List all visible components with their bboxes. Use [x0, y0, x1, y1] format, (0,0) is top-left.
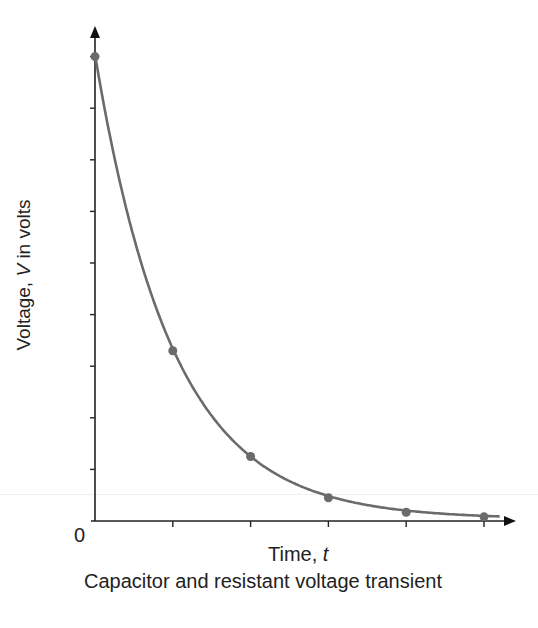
decay-curve [95, 55, 500, 517]
data-point [324, 493, 333, 502]
origin-label: 0 [74, 524, 85, 547]
data-point [168, 346, 177, 355]
data-point [480, 512, 489, 521]
x-axis-label: Time, t [268, 543, 328, 566]
data-points [91, 52, 489, 521]
axes [90, 26, 516, 527]
data-point [246, 452, 255, 461]
chart-caption: Capacitor and resistant voltage transien… [84, 570, 442, 593]
data-point [402, 508, 411, 517]
data-point [91, 52, 100, 61]
y-axis-label: Voltage, V in volts [13, 199, 35, 350]
